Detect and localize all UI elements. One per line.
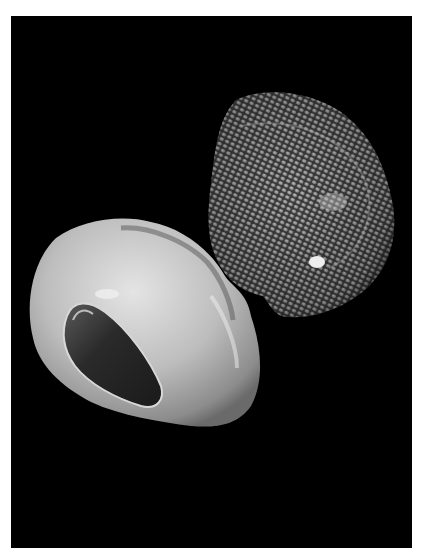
textured-shell [209, 92, 395, 317]
shells-illustration [11, 16, 412, 548]
photo [11, 16, 412, 548]
